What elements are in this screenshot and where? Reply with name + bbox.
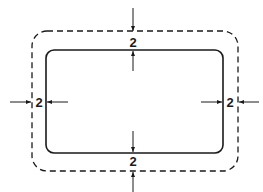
bottom-dimension: 2 (129, 131, 136, 192)
clearance-diagram: 2 2 2 2 (0, 0, 263, 192)
bottom-dimension-label: 2 (129, 154, 136, 169)
right-dimension-label: 2 (226, 95, 233, 110)
top-dimension-label: 2 (129, 35, 136, 50)
left-dimension-label: 2 (35, 95, 42, 110)
left-dimension: 2 (10, 95, 68, 110)
right-dimension: 2 (201, 95, 259, 110)
outer-dashed-boundary (32, 31, 238, 171)
inner-solid-rectangle (46, 50, 223, 153)
top-dimension: 2 (129, 8, 136, 71)
